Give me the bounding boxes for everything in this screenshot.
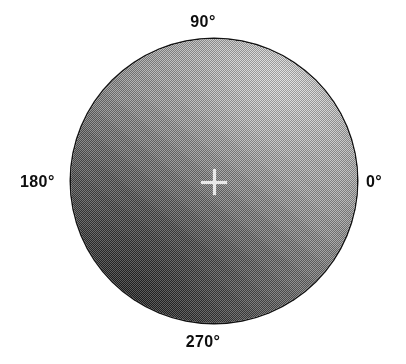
angle-label-90: 90°: [0, 14, 406, 30]
polar-diagram-figure: 90° 180° 0° 270°: [0, 0, 406, 364]
angle-label-180: 180°: [20, 174, 55, 190]
crosshair-vertical-bar: [213, 169, 216, 195]
angle-label-270: 270°: [0, 334, 406, 350]
angle-label-0: 0°: [366, 174, 382, 190]
